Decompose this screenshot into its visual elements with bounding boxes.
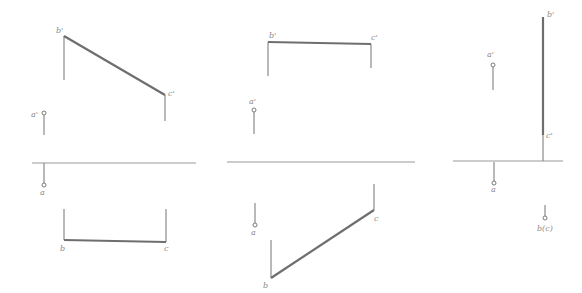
- label-b-prime: b': [269, 31, 276, 40]
- point-a-prime: [252, 108, 256, 112]
- line-b-c: [64, 240, 166, 242]
- label-b: b: [263, 281, 268, 290]
- point-a: [253, 223, 257, 227]
- line-b-prime-c-prime: [268, 42, 371, 44]
- label-c-prime: c': [546, 131, 553, 140]
- label-c: c: [164, 244, 169, 253]
- label-b: b: [60, 244, 65, 253]
- label-a: a: [251, 228, 256, 237]
- label-c-prime: c': [371, 33, 378, 42]
- label-a-prime: a': [487, 50, 494, 59]
- label-b-c: b(c): [537, 224, 553, 233]
- label-a-prime: a': [31, 110, 38, 119]
- panel-1: b' c' a' a b c: [31, 26, 196, 253]
- label-a-prime: a': [249, 97, 256, 106]
- line-b-c: [271, 210, 374, 278]
- projection-diagram: b' c' a' a b c b' c' a' a b c: [0, 0, 582, 293]
- label-c: c: [374, 214, 379, 223]
- point-a: [42, 183, 46, 187]
- point-b-c: [543, 216, 547, 220]
- label-b-prime: b': [547, 10, 554, 19]
- line-b-prime-c-prime: [64, 36, 165, 95]
- panel-2: b' c' a' a b c: [227, 31, 415, 290]
- label-a: a: [491, 185, 496, 194]
- point-a-prime: [42, 111, 46, 115]
- label-c-prime: c': [168, 89, 175, 98]
- panel-3: b' c' a' a b(c): [453, 10, 563, 233]
- label-b-prime: b': [56, 26, 63, 35]
- label-a: a: [40, 188, 45, 197]
- point-a-prime: [491, 63, 495, 67]
